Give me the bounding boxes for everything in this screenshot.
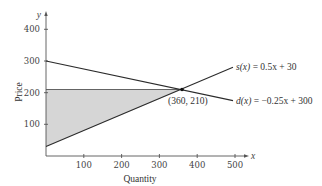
supply-rhs: = 0.5x + 30 [250, 62, 297, 72]
y-axis-title: Price [14, 82, 24, 102]
supply-func: s(x) [236, 62, 250, 73]
supply-label: s(x) = 0.5x + 30 [236, 62, 297, 73]
equilibrium-point [180, 88, 184, 92]
x-tick-label: 200 [113, 160, 129, 170]
x-tick-label: 300 [151, 160, 167, 170]
y-tick-label: 100 [24, 119, 40, 129]
demand-label: d(x) = −0.25x + 300 [236, 96, 313, 107]
supply-demand-chart: 100 200 300 400 100 200 300 400 500 y x … [0, 0, 322, 186]
demand-rhs: = −0.25x + 300 [251, 96, 312, 106]
x-axis-arrow-icon [244, 154, 249, 157]
demand-func: d(x) [236, 96, 251, 107]
x-tick-label: 100 [76, 160, 92, 170]
equilibrium-label: (360, 210) [168, 96, 208, 107]
y-axis-arrow-icon [44, 11, 47, 16]
y-tick-label: 300 [24, 56, 40, 66]
y-tick-label: 200 [24, 88, 40, 98]
x-axis-title: Quantity [123, 174, 156, 184]
x-tick-label: 400 [189, 160, 205, 170]
y-tick-label: 400 [24, 24, 40, 34]
x-tick-label: 500 [227, 160, 243, 170]
x-axis-variable: x [250, 151, 256, 161]
y-axis-variable: y [36, 10, 42, 20]
